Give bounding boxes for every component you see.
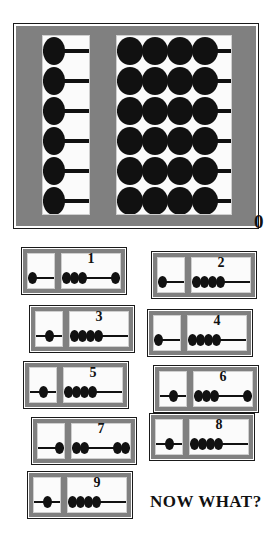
small-abacus-left-panel[interactable] — [35, 311, 63, 347]
small-abacus-left-panel[interactable] — [37, 423, 65, 459]
abacus-bead[interactable] — [78, 272, 87, 284]
abacus-bead[interactable] — [167, 157, 193, 185]
abacus-bead[interactable] — [192, 67, 218, 95]
abacus-bead[interactable] — [192, 37, 218, 65]
small-abacus-number-label: 1 — [61, 252, 121, 266]
small-abacus-3[interactable]: 3 — [30, 306, 134, 352]
main-abacus[interactable] — [14, 24, 258, 228]
abacus-bead[interactable] — [192, 157, 218, 185]
small-abacus-1[interactable]: 1 — [22, 248, 126, 294]
abacus-bead[interactable] — [55, 442, 64, 454]
abacus-bead[interactable] — [167, 97, 193, 125]
abacus-bead[interactable] — [43, 67, 65, 95]
abacus-bead[interactable] — [111, 272, 120, 284]
small-abacus-number-label: 9 — [67, 476, 127, 490]
abacus-bead[interactable] — [117, 37, 143, 65]
abacus-bead[interactable] — [167, 187, 193, 215]
abacus-bead[interactable] — [192, 187, 218, 215]
abacus-bead[interactable] — [43, 187, 65, 215]
abacus-bead[interactable] — [243, 390, 252, 402]
small-abacus-number-label: 7 — [71, 422, 131, 436]
abacus-bead[interactable] — [142, 127, 168, 155]
abacus-bead[interactable] — [210, 390, 219, 402]
small-abacus-6[interactable]: 6 — [154, 366, 258, 412]
small-abacus-number-label: 2 — [191, 256, 251, 270]
abacus-bead[interactable] — [45, 330, 54, 342]
abacus-bead[interactable] — [117, 187, 143, 215]
abacus-bead[interactable] — [117, 97, 143, 125]
zero-label: 0 — [254, 211, 264, 233]
small-abacus-left-panel[interactable] — [155, 419, 183, 455]
main-abacus-right-panel[interactable] — [116, 35, 232, 215]
small-abacus-number-label: 8 — [189, 418, 249, 432]
small-abacus-left-panel[interactable] — [33, 477, 61, 513]
abacus-bead[interactable] — [43, 97, 65, 125]
abacus-bead[interactable] — [165, 438, 174, 450]
abacus-bead[interactable] — [43, 127, 65, 155]
abacus-bead[interactable] — [212, 334, 221, 346]
now-what-text: NOW WHAT? — [150, 492, 262, 512]
small-abacus-8[interactable]: 8 — [150, 414, 254, 460]
abacus-bead[interactable] — [167, 37, 193, 65]
small-abacus-left-panel[interactable] — [29, 367, 57, 403]
abacus-bead[interactable] — [39, 386, 48, 398]
abacus-bead[interactable] — [142, 67, 168, 95]
abacus-bead[interactable] — [167, 127, 193, 155]
abacus-bead[interactable] — [117, 67, 143, 95]
abacus-bead[interactable] — [80, 442, 89, 454]
small-abacus-number-label: 6 — [193, 370, 253, 384]
abacus-bead[interactable] — [117, 127, 143, 155]
abacus-bead[interactable] — [117, 157, 143, 185]
abacus-bead[interactable] — [43, 496, 52, 508]
abacus-bead[interactable] — [158, 276, 167, 288]
small-abacus-4[interactable]: 4 — [148, 310, 252, 356]
main-abacus-left-panel[interactable] — [42, 35, 90, 215]
abacus-illustration: 0 123456789 NOW WHAT? — [0, 0, 280, 550]
abacus-bead[interactable] — [92, 496, 101, 508]
abacus-bead[interactable] — [43, 157, 65, 185]
abacus-bead[interactable] — [88, 386, 97, 398]
abacus-bead[interactable] — [167, 67, 193, 95]
abacus-bead[interactable] — [214, 438, 223, 450]
abacus-bead[interactable] — [121, 442, 130, 454]
abacus-bead[interactable] — [216, 276, 225, 288]
small-abacus-number-label: 4 — [187, 314, 247, 328]
abacus-bead[interactable] — [28, 272, 37, 284]
abacus-bead[interactable] — [192, 127, 218, 155]
abacus-bead[interactable] — [94, 330, 103, 342]
small-abacus-9[interactable]: 9 — [28, 472, 132, 518]
abacus-bead[interactable] — [192, 97, 218, 125]
small-abacus-7[interactable]: 7 — [32, 418, 136, 464]
abacus-bead[interactable] — [142, 37, 168, 65]
small-abacus-number-label: 3 — [69, 310, 129, 324]
abacus-bead[interactable] — [43, 37, 65, 65]
abacus-bead[interactable] — [142, 97, 168, 125]
small-abacus-left-panel[interactable] — [27, 253, 55, 289]
small-abacus-2[interactable]: 2 — [152, 252, 256, 298]
small-abacus-left-panel[interactable] — [153, 315, 181, 351]
abacus-bead[interactable] — [154, 334, 163, 346]
abacus-bead[interactable] — [142, 157, 168, 185]
small-abacus-left-panel[interactable] — [157, 257, 185, 293]
small-abacus-number-label: 5 — [63, 366, 123, 380]
small-abacus-5[interactable]: 5 — [24, 362, 128, 408]
abacus-bead[interactable] — [142, 187, 168, 215]
abacus-bead[interactable] — [169, 390, 178, 402]
small-abacus-left-panel[interactable] — [159, 371, 187, 407]
